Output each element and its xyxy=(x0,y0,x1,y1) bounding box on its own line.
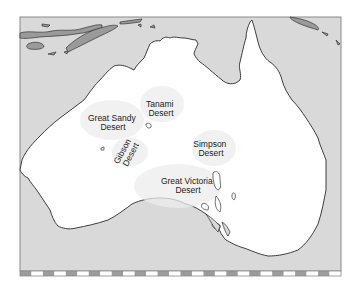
scale-bar-segment xyxy=(20,271,31,276)
scale-bar-segment xyxy=(238,271,249,276)
scale-bar-segment xyxy=(318,271,329,276)
scale-bar-segment xyxy=(261,271,272,276)
scale-bar-segment xyxy=(54,271,65,276)
scale-bar-segment xyxy=(284,271,295,276)
scale-bar-segment xyxy=(66,271,77,276)
scale-bar-segment xyxy=(112,271,123,276)
scale-bar-segment xyxy=(330,271,341,276)
scale-bar-segment xyxy=(169,271,180,276)
scale-bar-segment xyxy=(146,271,157,276)
scale-bar-segment xyxy=(123,271,134,276)
scale-bar-segment xyxy=(100,271,111,276)
scale-bar-segment xyxy=(31,271,42,276)
scale-bar-segment xyxy=(192,271,203,276)
scale-bar-segment xyxy=(203,271,214,276)
lake-frome xyxy=(232,193,235,200)
australia-desert-map: Great Sandy Desert Tanami Desert Gibson … xyxy=(0,0,356,288)
scale-bar-segment xyxy=(43,271,54,276)
scale-bar-segment xyxy=(215,271,226,276)
scale-bar-segment xyxy=(181,271,192,276)
label-tanami-desert: Tanami Desert xyxy=(146,99,176,118)
label-simpson-desert: Simpson Desert xyxy=(193,139,228,158)
scale-bar-segment xyxy=(295,271,306,276)
scale-bar-segment xyxy=(77,271,88,276)
scale-bar-segment xyxy=(135,271,146,276)
scale-bar-segment xyxy=(226,271,237,276)
lake-tanami xyxy=(146,123,151,128)
scale-bar-segment xyxy=(158,271,169,276)
scale-bar-segment xyxy=(249,271,260,276)
scale-bar-segment xyxy=(89,271,100,276)
scale-bar-segment xyxy=(272,271,283,276)
scale-bar xyxy=(20,271,341,276)
scale-bar-segment xyxy=(307,271,318,276)
